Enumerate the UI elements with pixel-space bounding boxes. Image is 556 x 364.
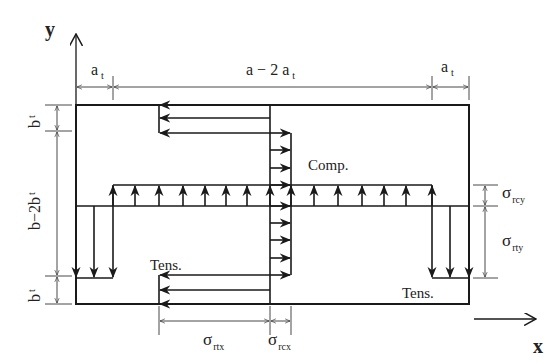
tension-label-right: Tens. bbox=[402, 285, 434, 301]
tension-label-left: Tens. bbox=[150, 257, 182, 273]
dim-at-right: at bbox=[441, 58, 454, 78]
dim-at-left: at bbox=[91, 61, 104, 81]
x-axis-label: x bbox=[533, 335, 543, 357]
right-dimensions bbox=[473, 185, 498, 278]
dim-sigma-rty: σrty bbox=[502, 231, 523, 253]
compression-label: Comp. bbox=[308, 157, 348, 173]
dim-bt-bottom: bt bbox=[26, 289, 43, 302]
dim-b-minus-2bt: b−2bt bbox=[26, 192, 43, 230]
dim-sigma-rtx: σrtx bbox=[203, 330, 224, 352]
y-axis-label: y bbox=[45, 18, 55, 41]
sigma-y-distribution bbox=[76, 185, 469, 278]
dim-sigma-rcx: σrcx bbox=[268, 330, 291, 352]
left-dimensions bbox=[45, 105, 72, 304]
dim-a-minus-2at: a − 2 at bbox=[246, 61, 295, 81]
top-dimensions bbox=[77, 76, 469, 100]
residual-stress-diagram: y x at a − 2 at at bt b−2bt bt σrcy σrty… bbox=[0, 0, 556, 364]
dim-bt-top: bt bbox=[26, 115, 43, 128]
sigma-x-distribution bbox=[159, 105, 291, 304]
dim-sigma-rcy: σrcy bbox=[502, 183, 525, 205]
